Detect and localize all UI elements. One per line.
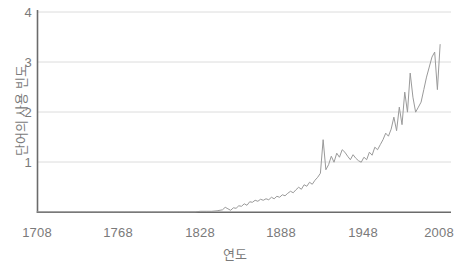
data-series-line — [38, 45, 441, 212]
x-axis-tick-1828: 1828 — [170, 226, 230, 239]
y-axis-label: 단어의 사용 빈도 — [15, 46, 28, 176]
y-axis-tick-4: 4 — [10, 6, 32, 19]
x-axis-tick-1888: 1888 — [251, 226, 311, 239]
axes — [37, 10, 451, 213]
x-axis-tick-1768: 1768 — [88, 226, 148, 239]
gridlines — [37, 12, 451, 162]
x-axis-label: 연도 — [205, 248, 265, 261]
x-axis-tick-1708: 1708 — [7, 226, 67, 239]
x-axis-tick-2008: 2008 — [409, 226, 459, 239]
x-axis-tick-1948: 1948 — [333, 226, 393, 239]
chart-figure: 4 3 2 1 1708 1768 1828 1888 1948 2008 연도… — [0, 0, 459, 272]
